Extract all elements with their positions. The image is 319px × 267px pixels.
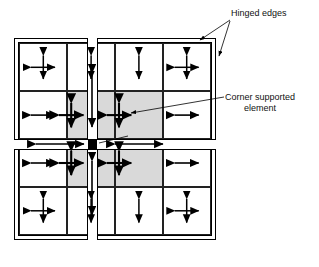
- hinged-edges-label: Hinged edges: [231, 8, 287, 19]
- corner-supported-label-line1: Corner supported: [225, 92, 295, 102]
- horizontal-column-strip: [14, 139, 216, 150]
- slab-element-r1c3: [115, 43, 163, 91]
- corner-supported-element-label: Corner supported element: [225, 92, 295, 114]
- central-column: [88, 140, 97, 149]
- slab-element-r4c3: [115, 187, 163, 235]
- slab-element-r1c1: [19, 43, 67, 91]
- slab-element-r2c1: [19, 91, 67, 139]
- figure-canvas: Hinged edges Corner supported element Co…: [0, 0, 319, 267]
- slab-element-r2c4: [163, 91, 211, 139]
- slab-element-r4c4: [163, 187, 211, 235]
- slab-element-r1c4: [163, 43, 211, 91]
- corner-supported-label-line2: element: [225, 103, 295, 114]
- slab-element-r4c1: [19, 187, 67, 235]
- slab-element-r2c3: [115, 91, 163, 139]
